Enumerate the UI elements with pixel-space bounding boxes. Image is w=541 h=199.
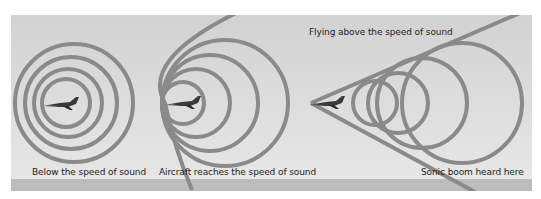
- sound-barrier-diagram: Below the speed of sound Aircraft reache…: [0, 0, 541, 199]
- label-subsonic: Below the speed of sound: [32, 167, 146, 177]
- label-supersonic: Flying above the speed of sound: [309, 27, 453, 37]
- label-sonic-boom: Sonic boom heard here: [421, 167, 524, 177]
- label-sonic: Aircraft reaches the speed of sound: [159, 167, 316, 177]
